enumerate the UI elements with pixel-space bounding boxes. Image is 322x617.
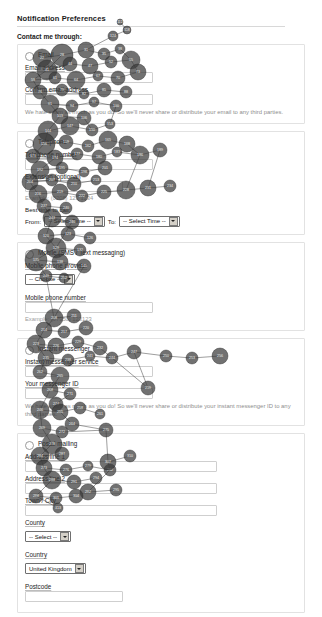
radio-icon-messenger[interactable] bbox=[25, 346, 34, 355]
select-county-value: -- Select -- bbox=[29, 534, 57, 540]
radio-icon-mobile[interactable] bbox=[25, 250, 34, 259]
label-messenger-service: Instant messenger service bbox=[25, 358, 297, 365]
best-time-row: From: -- Select Time -- To: -- Select Ti… bbox=[25, 216, 297, 228]
label-messenger-id: Your messenger ID bbox=[25, 380, 297, 387]
input-postcode[interactable] bbox=[25, 591, 123, 602]
label-telephone-extension: Extension (optional) bbox=[25, 173, 297, 180]
label-telephone-number: Telephone number bbox=[25, 151, 297, 158]
input-mobile-number[interactable] bbox=[25, 302, 153, 313]
label-best-time-to-call: Best time to call: bbox=[25, 206, 297, 213]
select-time-from-value: -- Select Time -- bbox=[48, 218, 91, 224]
section-email: Email Email address Confirm email addres… bbox=[17, 44, 305, 124]
label-mobile-number: Mobile phone number bbox=[25, 294, 297, 301]
radio-label-email: Email bbox=[38, 51, 54, 59]
input-email-address[interactable] bbox=[25, 72, 153, 83]
radio-option-mobile[interactable]: Mobile (SMS / Text messaging) bbox=[25, 249, 297, 259]
hint-mobile-example: Example: (07950) 123123 bbox=[25, 316, 297, 324]
radio-icon-email[interactable] bbox=[25, 52, 34, 61]
select-time-from[interactable]: -- Select Time -- bbox=[44, 216, 105, 228]
section-mobile: Mobile (SMS / Text messaging) Mobile pho… bbox=[17, 242, 305, 331]
label-postcode: Postcode bbox=[25, 583, 297, 590]
label-country: Country bbox=[25, 551, 297, 558]
chevron-down-icon[interactable] bbox=[169, 217, 178, 227]
chevron-down-icon[interactable] bbox=[60, 532, 69, 542]
page-title: Notification Preferences bbox=[17, 14, 285, 27]
radio-label-mobile: Mobile (SMS / Text messaging) bbox=[38, 249, 125, 257]
label-email-address: Email address bbox=[25, 64, 297, 71]
input-messenger-service[interactable] bbox=[25, 366, 153, 377]
radio-icon-telephone[interactable] bbox=[25, 139, 34, 148]
select-time-to[interactable]: -- Select Time -- bbox=[119, 216, 180, 228]
label-mobile-provider: Mobile phone provider bbox=[25, 262, 297, 269]
section-telephone: Telephone Telephone number Extension (op… bbox=[17, 131, 305, 235]
chevron-down-icon[interactable] bbox=[75, 564, 84, 574]
hint-telephone-example: Example: (0208) 123 1234 bbox=[25, 195, 297, 203]
chevron-down-icon[interactable] bbox=[94, 217, 103, 227]
chevron-down-icon[interactable] bbox=[64, 275, 73, 285]
radio-option-postal[interactable]: Postal mailing bbox=[25, 440, 297, 450]
contact-method-label: Contact me through: bbox=[17, 33, 305, 40]
radio-label-messenger: Instant messenger bbox=[38, 345, 90, 353]
note-email-privacy: We hate spam as much as you do! So we'll… bbox=[25, 109, 297, 117]
select-country[interactable]: United Kingdom bbox=[25, 563, 86, 575]
label-town-city: Town / City bbox=[25, 497, 297, 504]
label-time-to: To: bbox=[108, 218, 116, 225]
label-county: County bbox=[25, 519, 297, 526]
notification-preferences-form: Notification Preferences Contact me thro… bbox=[17, 14, 305, 617]
radio-label-telephone: Telephone bbox=[38, 138, 67, 146]
input-telephone-number[interactable] bbox=[25, 159, 153, 170]
label-confirm-email-address: Confirm email address bbox=[25, 86, 297, 93]
select-mobile-provider-value: -- Choose -- bbox=[29, 276, 61, 282]
input-town-city[interactable] bbox=[25, 505, 217, 516]
radio-label-postal: Postal mailing bbox=[38, 440, 77, 448]
radio-icon-postal[interactable] bbox=[25, 441, 34, 450]
select-mobile-provider[interactable]: -- Choose -- bbox=[25, 274, 75, 286]
label-address-line-1: Address line 1 bbox=[25, 453, 297, 460]
radio-option-email[interactable]: Email bbox=[25, 51, 297, 61]
select-county[interactable]: -- Select -- bbox=[25, 531, 71, 543]
input-messenger-id[interactable] bbox=[25, 388, 153, 399]
select-country-value: United Kingdom bbox=[29, 566, 72, 572]
section-postal: Postal mailing Address line 1 Address li… bbox=[17, 433, 305, 613]
input-address-line-2[interactable] bbox=[25, 483, 217, 494]
label-time-from: From: bbox=[25, 218, 41, 225]
note-messenger-privacy: We hate spam as much as you do! So we'll… bbox=[25, 403, 297, 419]
select-time-to-value: -- Select Time -- bbox=[123, 218, 166, 224]
input-telephone-extension[interactable] bbox=[25, 181, 123, 192]
input-confirm-email-address[interactable] bbox=[25, 94, 153, 105]
input-address-line-1[interactable] bbox=[25, 461, 217, 472]
label-address-line-2: Address line 2 bbox=[25, 475, 297, 482]
radio-option-telephone[interactable]: Telephone bbox=[25, 138, 297, 148]
section-instant-messenger: Instant messenger Instant messenger serv… bbox=[17, 338, 305, 426]
radio-option-messenger[interactable]: Instant messenger bbox=[25, 345, 297, 355]
